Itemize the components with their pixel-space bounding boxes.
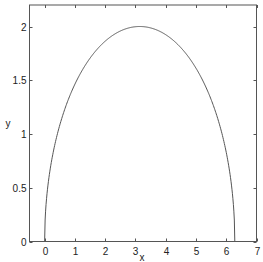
y-tick-label: 1.5 <box>13 75 27 86</box>
x-axis-label: x <box>140 252 145 262</box>
x-tick-label: 2 <box>103 246 109 257</box>
x-tick-label: 0 <box>43 246 49 257</box>
chart: 0123456700.511.52 x y <box>0 0 263 262</box>
y-tick-label: 2 <box>21 22 27 33</box>
x-tick-label: 5 <box>194 246 200 257</box>
x-tick-label: 7 <box>255 246 261 257</box>
x-tick-label: 3 <box>133 246 139 257</box>
y-axis-label: y <box>6 118 11 129</box>
x-tick-label: 6 <box>224 246 230 257</box>
x-tick-label: 4 <box>164 246 170 257</box>
y-tick-label: 0.5 <box>13 183 27 194</box>
chart-background <box>0 0 263 262</box>
y-tick-label: 0 <box>21 237 27 248</box>
x-tick-label: 1 <box>73 246 79 257</box>
y-tick-label: 1 <box>21 129 27 140</box>
